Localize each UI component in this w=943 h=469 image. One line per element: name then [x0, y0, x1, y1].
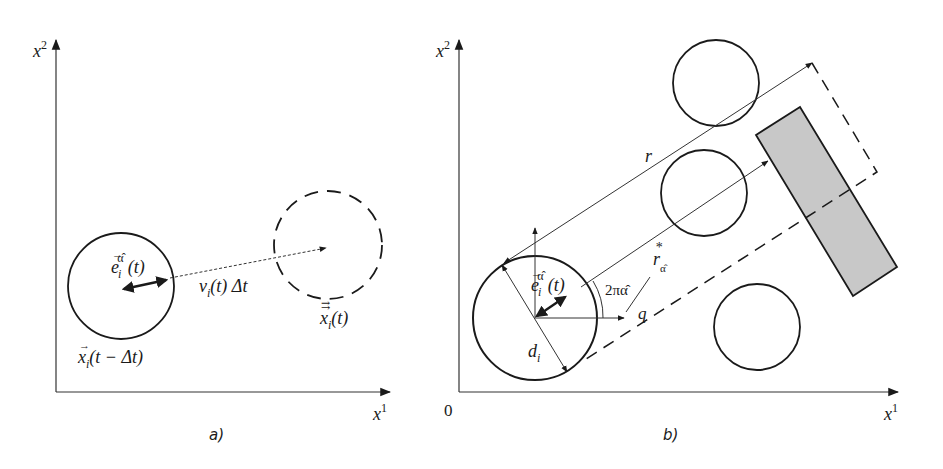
- panel-a-caption: a): [209, 426, 224, 444]
- displacement-arrow: [170, 248, 326, 278]
- y-axis-label: x2: [435, 38, 450, 61]
- vector-arrow-glyph: ⇉: [321, 299, 330, 311]
- diameter-label: di: [528, 341, 540, 365]
- q-label: q: [638, 304, 647, 323]
- neighbor-circle: [661, 150, 747, 236]
- panel-b: x2 x1 0 r rα̂* 2πα̂ q eiα̂(t) →: [435, 38, 898, 444]
- free-range-label: rα̂*: [653, 240, 668, 274]
- x-axis-label: x1: [883, 401, 898, 424]
- y-axis-label: x2: [32, 38, 47, 61]
- free-range-arrow: [581, 161, 768, 287]
- panel-a: x2 x1 eiα̂(t) → vi(t) Δt xi(t − Δt) → xi…: [32, 38, 390, 444]
- figure: x2 x1 eiα̂(t) → vi(t) Δt xi(t − Δt) → xi…: [0, 0, 943, 469]
- vector-arrow-glyph: →: [531, 267, 542, 279]
- x-axis-label: x1: [372, 401, 387, 424]
- displacement-label: vi(t) Δt: [199, 276, 248, 300]
- angle-label: 2πα̂: [605, 282, 631, 298]
- agent-circle-current: [274, 191, 382, 299]
- origin-label: 0: [444, 401, 453, 420]
- panel-b-caption: b): [663, 426, 678, 444]
- neighbor-circle: [714, 284, 800, 370]
- direction-vector: [537, 297, 565, 316]
- direction-vector: [124, 280, 166, 289]
- obstacle-wall: [756, 107, 897, 296]
- vector-arrow-glyph: →: [112, 248, 123, 260]
- neighbor-circle: [673, 40, 759, 126]
- vector-arrow-glyph: →: [79, 339, 90, 351]
- range-label: r: [645, 146, 653, 166]
- current-position-label: xi(t): [319, 308, 348, 332]
